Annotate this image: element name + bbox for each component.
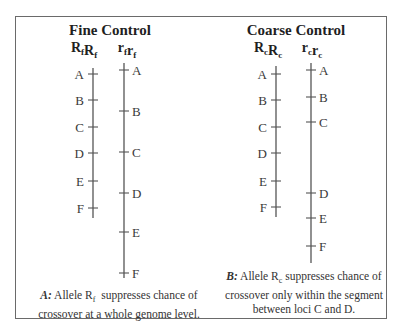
locus-label: D <box>319 186 328 201</box>
locus-label: B <box>319 90 328 105</box>
caption-a-text-2: suppresses chance of <box>95 289 197 301</box>
genotype-label: rcrc <box>302 40 322 60</box>
genotype-label: RcRc <box>254 40 282 60</box>
locus-label: D <box>258 146 267 161</box>
locus-label: D <box>132 186 141 201</box>
caption-a: A: Allele Rf suppresses chance of crosso… <box>24 288 214 321</box>
locus-label: A <box>75 67 85 82</box>
locus-label: E <box>132 225 140 240</box>
genotype-label: RfRf <box>71 40 98 60</box>
panel-a-title: Fine Control <box>69 22 151 38</box>
locus-label: A <box>132 63 142 78</box>
caption-a-text: Allele R <box>54 289 93 301</box>
locus-label: E <box>76 174 84 189</box>
caption-b-line2: crossover only within the segment <box>218 288 390 302</box>
locus-label: D <box>75 146 84 161</box>
caption-a-letter: A: <box>40 289 52 301</box>
caption-b-text: Allele R <box>240 270 279 282</box>
caption-b-letter: B: <box>226 270 238 282</box>
locus-label: F <box>319 239 326 254</box>
locus-label: E <box>259 174 267 189</box>
caption-a-line2: crossover at a whole genome level. <box>24 307 214 321</box>
locus-label: C <box>319 115 328 130</box>
caption-b: B: Allele Rc suppresses chance of crosso… <box>218 269 390 316</box>
locus-label: E <box>319 211 327 226</box>
locus-label: A <box>258 67 268 82</box>
locus-label: B <box>132 104 141 119</box>
locus-label: C <box>258 120 267 135</box>
locus-label: B <box>75 93 84 108</box>
genotype-label: rfrf <box>118 40 137 60</box>
panel-b-title: Coarse Control <box>247 22 345 38</box>
locus-label: C <box>132 145 141 160</box>
locus-label: B <box>258 93 267 108</box>
caption-b-text-2: suppresses chance of <box>282 270 381 282</box>
locus-label: F <box>260 200 267 215</box>
locus-label: A <box>319 63 329 78</box>
caption-b-line3: between loci C and D. <box>218 302 390 316</box>
locus-label: C <box>75 120 84 135</box>
locus-label: F <box>132 266 139 281</box>
locus-label: F <box>77 201 84 216</box>
